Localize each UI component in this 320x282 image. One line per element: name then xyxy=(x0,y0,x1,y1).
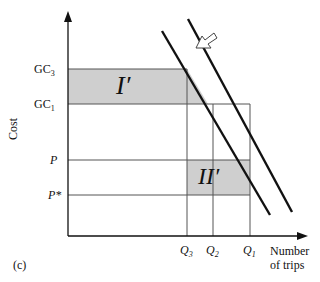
region-ii-prime-label: II′ xyxy=(198,164,219,188)
y-axis-arrow-icon xyxy=(64,11,72,22)
tick-gc3: GC3 xyxy=(34,63,55,78)
panel-label: (c) xyxy=(13,259,26,271)
diagram-canvas xyxy=(0,0,320,282)
x-axis-label-line1: Number xyxy=(270,245,309,257)
tick-p: P xyxy=(50,154,57,166)
tick-q3: Q3 xyxy=(180,244,193,259)
region-i-prime-label: I′ xyxy=(116,73,130,99)
x-axis-arrow-icon xyxy=(297,232,308,240)
x-axis-label-line2: of trips xyxy=(270,259,304,271)
tick-q2: Q2 xyxy=(206,244,219,259)
tick-p-star: P* xyxy=(48,189,61,201)
tick-q1: Q1 xyxy=(243,244,256,259)
tick-gc1: GC1 xyxy=(34,98,55,113)
y-axis-label: Cost xyxy=(6,118,21,140)
